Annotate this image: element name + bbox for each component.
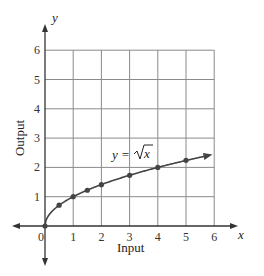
svg-text:x: x	[143, 146, 150, 161]
curve-series	[42, 153, 212, 229]
svg-text:y =: y =	[110, 147, 130, 162]
data-point	[183, 158, 188, 163]
y-axis-variable: y	[50, 10, 58, 25]
sqrt-function-chart: 0123456123456 x y Input Output y = x	[0, 0, 264, 276]
data-point	[42, 223, 47, 228]
grid-lines	[45, 50, 214, 226]
x-tick-label: 1	[70, 230, 76, 244]
x-tick-label: 2	[98, 230, 104, 244]
data-point	[57, 203, 62, 208]
x-tick-label: 0	[38, 230, 44, 244]
x-axis-right-arrow-icon	[230, 223, 238, 229]
y-tick-label: 4	[34, 102, 40, 116]
x-tick-label: 6	[211, 230, 217, 244]
data-point	[85, 188, 90, 193]
y-axis-title: Output	[12, 120, 27, 157]
data-point	[71, 194, 76, 199]
y-tick-label: 3	[34, 131, 40, 145]
data-point	[127, 173, 132, 178]
x-tick-label: 4	[155, 230, 161, 244]
equation-label: y = x	[110, 145, 153, 162]
axes	[12, 24, 238, 266]
x-axis-left-arrow-icon	[12, 223, 20, 229]
data-point	[99, 182, 104, 187]
x-axis-variable: x	[237, 227, 244, 242]
x-tick-label: 5	[183, 230, 189, 244]
y-axis-down-arrow-icon	[42, 258, 48, 266]
data-point	[155, 165, 160, 170]
y-axis-up-arrow-icon	[42, 24, 48, 32]
x-axis-title: Input	[117, 240, 145, 255]
curve-arrow-icon	[203, 153, 213, 160]
y-tick-label: 6	[34, 43, 40, 57]
tick-labels: 0123456123456	[34, 43, 217, 244]
sqrt-curve	[45, 155, 209, 226]
y-tick-label: 2	[34, 160, 40, 174]
y-tick-label: 1	[34, 190, 40, 204]
y-tick-label: 5	[34, 73, 40, 87]
